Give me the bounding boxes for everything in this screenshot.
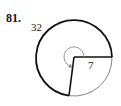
radius-label: 7 <box>88 59 94 71</box>
radius-lower <box>69 57 74 96</box>
sector-diagram: 32 7 <box>0 0 121 106</box>
arc-length-label: 32 <box>31 21 42 33</box>
